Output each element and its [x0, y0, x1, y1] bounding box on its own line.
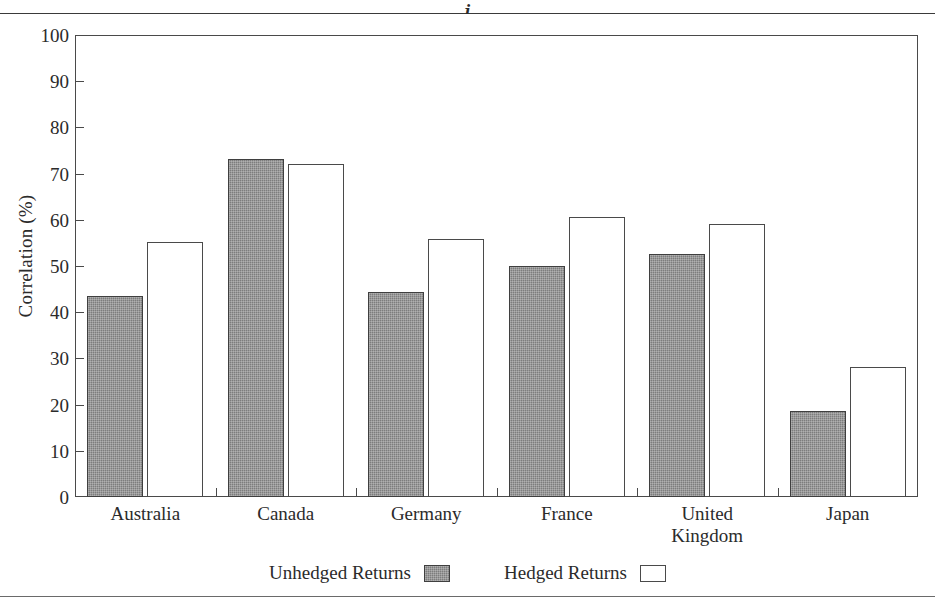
- legend-swatch-outline: [640, 565, 666, 582]
- x-category-label: United Kingdom: [637, 503, 778, 547]
- y-tick-mark: [75, 312, 84, 313]
- bar-hedged: [850, 367, 906, 497]
- bar-hedged: [147, 242, 203, 497]
- bar-unhedged: [368, 292, 424, 497]
- legend-label: Unhedged Returns: [269, 562, 411, 584]
- y-tick-mark: [75, 174, 84, 175]
- y-tick-label: 80: [9, 118, 69, 137]
- x-category-label: Australia: [75, 503, 216, 525]
- y-tick-label: 10: [9, 441, 69, 460]
- y-tick-label: 40: [9, 303, 69, 322]
- bar-unhedged: [228, 159, 284, 497]
- chart-figure: j Correlation (%) 0102030405060708090100…: [0, 0, 935, 600]
- x-category-label: Japan: [778, 503, 919, 525]
- x-tick-mark: [497, 488, 498, 497]
- y-tick-mark: [75, 358, 84, 359]
- legend-entry: Hedged Returns: [504, 562, 666, 584]
- y-tick-label: 50: [9, 257, 69, 276]
- y-tick-mark: [75, 451, 84, 452]
- x-tick-mark: [356, 488, 357, 497]
- x-tick-mark: [216, 488, 217, 497]
- bar-unhedged: [509, 266, 565, 497]
- bar-unhedged: [87, 296, 143, 497]
- y-tick-label: 90: [9, 72, 69, 91]
- y-tick-label: 100: [9, 26, 69, 45]
- bar-hedged: [288, 164, 344, 497]
- bar-hedged: [428, 239, 484, 497]
- y-tick-label: 70: [9, 164, 69, 183]
- y-tick-mark: [75, 81, 84, 82]
- legend-swatch-filled: [424, 565, 450, 582]
- clipped-title-fragment: j: [0, 0, 935, 14]
- y-tick-label: 60: [9, 210, 69, 229]
- x-category-label: Germany: [356, 503, 497, 525]
- legend-entry: Unhedged Returns: [269, 562, 450, 584]
- bar-hedged: [709, 224, 765, 498]
- top-divider-rule: j: [0, 13, 935, 14]
- bottom-divider-rule: [0, 596, 935, 597]
- y-tick-label: 0: [9, 488, 69, 507]
- x-category-label: France: [497, 503, 638, 525]
- x-tick-mark: [778, 488, 779, 497]
- y-tick-label: 20: [9, 395, 69, 414]
- y-tick-label: 30: [9, 349, 69, 368]
- bar-hedged: [569, 217, 625, 497]
- bar-unhedged: [790, 411, 846, 497]
- y-tick-mark: [75, 266, 84, 267]
- bar-unhedged: [649, 254, 705, 497]
- y-tick-mark: [75, 405, 84, 406]
- x-category-label: Canada: [216, 503, 357, 525]
- y-tick-mark: [75, 127, 84, 128]
- y-tick-mark: [75, 220, 84, 221]
- chart-legend: Unhedged ReturnsHedged Returns: [0, 562, 935, 584]
- legend-label: Hedged Returns: [504, 562, 627, 584]
- x-tick-mark: [637, 488, 638, 497]
